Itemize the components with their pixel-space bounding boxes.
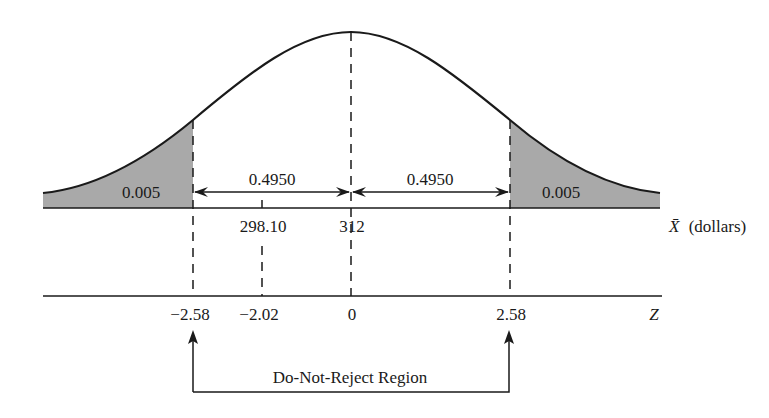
xbar-unit: (dollars) [689,217,747,236]
xbar-tick-label-sample-mean: 298.10 [240,217,287,236]
right-tail-area-label: 0.005 [542,183,580,202]
do-not-reject-region-label: Do-Not-Reject Region [273,368,428,387]
xbar-axis-label: X̄ (dollars) [668,217,746,236]
z-tick-label-pos-critical: 2.58 [496,305,526,324]
normal-curve-diagram: 0.005 0.005 0.4950 0.4950 298.10 312 X̄ … [0,0,769,418]
left-center-area-label: 0.4950 [249,170,296,189]
z-tick-label-zero: 0 [348,305,357,324]
xbar-tick-label-hypothesized-mean: 312 [339,217,365,236]
z-tick-label-test-statistic: −2.02 [239,305,278,324]
right-tail-shading [510,120,660,208]
left-tail-shading [43,120,193,208]
z-axis-label: Z [649,305,659,324]
xbar-symbol: X̄ [668,217,680,236]
z-tick-label-neg-critical: −2.58 [170,305,209,324]
right-center-area-label: 0.4950 [407,170,454,189]
left-tail-area-label: 0.005 [122,183,160,202]
